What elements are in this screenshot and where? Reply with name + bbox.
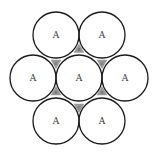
circle-label: A [29,73,37,83]
circle-label: A [98,116,106,126]
circle-packing-diagram: BCCBBCAAAAAAA [0,0,159,152]
interstice-label: C [54,61,57,66]
interstice-label: B [101,90,104,95]
circle-label: A [52,116,60,126]
circle-label: A [75,73,83,83]
interstice-label: C [100,61,103,66]
interstice-label: C [77,105,80,110]
circle-label: A [98,30,106,40]
interstice-label: B [78,47,81,52]
interstice-label: B [55,90,58,95]
circle-label: A [121,73,129,83]
circle-label: A [52,30,60,40]
